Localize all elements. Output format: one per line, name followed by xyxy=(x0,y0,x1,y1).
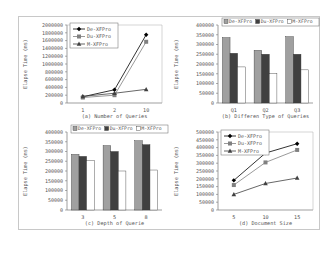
legend: De-XFProDu-XFProM-XFPro xyxy=(221,130,269,155)
bar-du-xfpro xyxy=(293,54,301,103)
chart-caption: (c) Depth of Querie xyxy=(85,220,144,227)
data-point-du-xfpro xyxy=(232,183,236,187)
y-tick-label: 150000 xyxy=(196,183,214,189)
y-tick-label: 300000 xyxy=(196,41,214,47)
legend-label: De-XFPro xyxy=(229,19,252,24)
y-tick-label: 150000 xyxy=(45,178,63,184)
chart-depth-of-queries: Elapse Time (ms)050000100000150000200000… xyxy=(18,123,169,230)
y-tick-label: 250000 xyxy=(45,158,63,164)
y-tick-label: 50000 xyxy=(199,199,214,205)
bar-du-xfpro xyxy=(230,53,238,103)
y-tick-label: 300000 xyxy=(196,160,214,166)
legend-label: De-XFPro xyxy=(78,126,101,131)
y-tick-label: 2000000 xyxy=(42,22,63,28)
y-tick-label: 200000 xyxy=(45,92,63,98)
y-tick-label: 350000 xyxy=(196,152,214,158)
legend-swatch xyxy=(105,127,109,131)
y-tick-label: 250000 xyxy=(196,51,214,57)
y-tick-label: 0 xyxy=(211,100,214,106)
y-tick-label: 400000 xyxy=(45,84,63,90)
bar-de-xfpro xyxy=(222,38,230,103)
legend-label: M-XFPro xyxy=(87,41,108,47)
y-tick-label: 800000 xyxy=(45,69,63,75)
bar-m-xfpro xyxy=(118,171,126,210)
chart-caption: (d) Document Size xyxy=(239,220,292,226)
x-tick-label: 8 xyxy=(145,214,148,220)
y-tick-label: 400000 xyxy=(196,22,214,28)
bar-du-xfpro xyxy=(262,54,270,103)
bar-du-xfpro xyxy=(111,152,119,211)
chart-caption: (b) Differen Type of Queries xyxy=(222,113,309,120)
legend-label: Du-XFPro xyxy=(87,33,111,39)
y-tick-label: 100000 xyxy=(196,80,214,86)
x-tick-label: 15 xyxy=(294,214,300,220)
bar-m-xfpro xyxy=(269,74,277,103)
legend-swatch xyxy=(287,20,291,24)
bar-de-xfpro xyxy=(286,37,294,103)
bar-m-xfpro xyxy=(150,170,158,210)
chart-caption: (a) Number of Queries xyxy=(82,113,148,119)
legend-label: M-XFPro xyxy=(141,126,161,131)
legend-marker xyxy=(228,142,232,146)
legend-label: Du-XFPro xyxy=(261,19,284,24)
legend: De-XFProDu-XFProM-XFPro xyxy=(222,18,319,26)
y-tick-label: 200000 xyxy=(196,176,214,182)
y-tick-label: 350000 xyxy=(196,32,214,38)
chart-number-of-queries: Elapse Time (ms)020000040000060000080000… xyxy=(18,16,169,123)
series-line-m-xfpro xyxy=(234,178,297,194)
legend-swatch xyxy=(73,127,77,131)
y-tick-label: 0 xyxy=(60,100,63,106)
data-point-m-xfpro xyxy=(144,87,149,91)
y-tick-label: 300000 xyxy=(45,148,63,154)
legend-label: Du-XFPro xyxy=(110,126,133,131)
y-axis-label: Elapse Time (ms) xyxy=(173,39,180,89)
y-tick-label: 350000 xyxy=(45,139,63,145)
bar-de-xfpro xyxy=(135,141,143,210)
y-tick-label: 1800000 xyxy=(42,30,63,36)
bar-m-xfpro xyxy=(238,67,246,103)
legend-label: Du-XFPro xyxy=(238,140,262,146)
bar-du-xfpro xyxy=(142,145,150,210)
y-tick-label: 200000 xyxy=(45,168,63,174)
bar-m-xfpro xyxy=(301,70,309,103)
y-tick-label: 0 xyxy=(211,207,214,213)
y-tick-label: 100000 xyxy=(45,187,63,193)
y-tick-label: 600000 xyxy=(45,76,63,82)
bar-de-xfpro xyxy=(254,50,262,103)
data-point-de-xfpro xyxy=(295,142,299,146)
y-tick-label: 1400000 xyxy=(42,45,63,51)
y-axis-label: Elapse Time (ms) xyxy=(173,146,180,196)
y-tick-label: 200000 xyxy=(196,61,214,67)
bar-m-xfpro xyxy=(87,160,95,210)
y-tick-label: 100000 xyxy=(196,191,214,197)
data-point-du-xfpro xyxy=(144,40,148,44)
y-tick-label: 500000 xyxy=(196,129,214,135)
y-tick-label: 50000 xyxy=(48,197,63,203)
y-tick-label: 250000 xyxy=(196,168,214,174)
legend: De-XFProDu-XFProM-XFPro xyxy=(70,23,118,48)
legend-swatch xyxy=(256,20,260,24)
y-tick-label: 150000 xyxy=(196,71,214,77)
y-tick-label: 1000000 xyxy=(42,61,63,67)
data-point-du-xfpro xyxy=(264,160,268,164)
legend-marker xyxy=(77,35,81,39)
legend: De-XFProDu-XFProM-XFPro xyxy=(71,125,168,133)
legend-label: M-XFPro xyxy=(292,19,312,24)
y-tick-label: 1600000 xyxy=(42,37,63,43)
legend-swatch xyxy=(224,20,228,24)
chart-type-of-queries: Elapse Time (ms)050000100000150000200000… xyxy=(169,16,320,123)
chart-document-size: Elapse Time (ms)050000100000150000200000… xyxy=(169,123,320,230)
data-point-de-xfpro xyxy=(144,33,148,37)
legend-label: De-XFPro xyxy=(87,26,111,32)
bar-de-xfpro xyxy=(71,154,79,210)
y-tick-label: 50000 xyxy=(199,90,214,96)
legend-label: De-XFPro xyxy=(238,133,262,139)
bar-de-xfpro xyxy=(103,146,111,210)
y-axis-label: Elapse Time (ms) xyxy=(22,146,29,196)
y-tick-label: 1200000 xyxy=(42,53,63,59)
data-point-m-xfpro xyxy=(295,176,300,180)
y-tick-label: 450000 xyxy=(196,137,214,143)
y-tick-label: 400000 xyxy=(196,144,214,150)
legend-swatch xyxy=(136,127,140,131)
x-tick-label: 5 xyxy=(232,214,235,220)
